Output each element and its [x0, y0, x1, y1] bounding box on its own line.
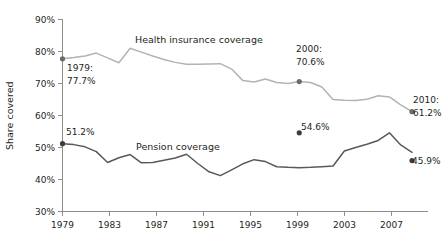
annotation-health-1979-value: 77.7% [67, 76, 96, 86]
y-tick-label-30: 30% [35, 207, 55, 217]
data-point-health-2000 [297, 79, 302, 84]
y-tick-label-70: 70% [35, 79, 55, 89]
chart-container: Share covered 90% 80% 70% 60% 50% 40% 30… [0, 0, 446, 246]
y-tick-label-80: 80% [35, 47, 55, 57]
x-tick-label-1987: 1987 [145, 220, 168, 230]
y-axis-label: Share covered [4, 81, 15, 150]
data-point-health-start [60, 56, 65, 61]
annotation-health-2010-year: 2010: [413, 95, 439, 105]
data-point-markers [60, 56, 415, 163]
x-tick-label-1995: 1995 [239, 220, 262, 230]
annotation-pension-2010-value: 45.9% [412, 156, 441, 166]
x-tick-label-1983: 1983 [98, 220, 121, 230]
health-insurance-coverage-line [63, 48, 413, 111]
annotation-pension-1979-value: 51.2% [66, 127, 95, 137]
annotation-health-1979-year: 1979: [67, 63, 93, 73]
y-tick-label-60: 60% [35, 111, 55, 121]
annotation-health-2000-value: 70.6% [296, 57, 325, 67]
health-series-label: Health insurance coverage [135, 34, 263, 45]
y-tick-marks [58, 20, 63, 212]
line-chart: Share covered 90% 80% 70% 60% 50% 40% 30… [0, 0, 446, 246]
annotation-health-2010-value: 61.2% [413, 108, 442, 118]
pension-series-label: Pension coverage [136, 141, 220, 152]
x-tick-label-2003: 2003 [333, 220, 356, 230]
data-point-pension-start [60, 141, 65, 146]
pension-coverage-line [63, 133, 413, 176]
x-tick-label-2007: 2007 [380, 220, 403, 230]
x-tick-label-1979: 1979 [51, 220, 74, 230]
x-tick-label-1999: 1999 [286, 220, 309, 230]
y-tick-label-90: 90% [35, 15, 55, 25]
x-tick-label-1991: 1991 [192, 220, 215, 230]
y-tick-label-50: 50% [35, 143, 55, 153]
x-tick-marks [63, 212, 392, 217]
annotation-health-2000-year: 2000: [296, 44, 322, 54]
y-tick-label-40: 40% [35, 175, 55, 185]
annotation-pension-peak-value: 54.6% [301, 122, 330, 132]
